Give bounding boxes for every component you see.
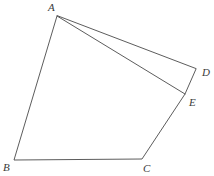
diagonal-a-e [57, 16, 185, 94]
vertex-label-e: E [189, 97, 196, 108]
figure-canvas [0, 0, 214, 176]
vertex-label-a: A [48, 2, 55, 13]
vertex-label-d: D [202, 67, 210, 78]
vertex-label-c: C [143, 163, 150, 174]
vertex-label-b: B [3, 162, 10, 173]
geometry-figure: A B C D E [0, 0, 214, 176]
polygon-outline [14, 16, 196, 160]
